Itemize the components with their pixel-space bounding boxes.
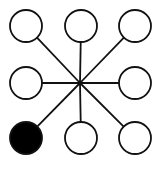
edge-top-center [80,42,81,83]
node-middle-left [10,67,42,99]
node-top-left [10,10,42,42]
edge-top-left [37,38,80,83]
node-middle-right [119,67,151,99]
edge-top-right [80,38,124,83]
node-top-right [119,10,151,42]
node-bottom-left-filled [10,122,42,154]
hub-point [78,81,81,84]
star-network-diagram [0,0,160,169]
node-top-center [65,10,97,42]
node-bottom-right [119,122,151,154]
edge-bottom-right [80,83,124,127]
edge-bottom-center [80,83,81,122]
edge-bottom-left [37,83,80,127]
node-bottom-center [65,122,97,154]
